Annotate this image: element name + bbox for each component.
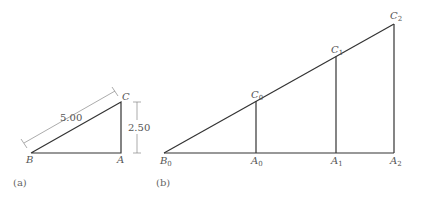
label-a0: A0 <box>250 155 263 168</box>
hypotenuse-length: 5.00 <box>60 112 82 123</box>
label-a2: A2 <box>389 155 402 168</box>
triangle-abc <box>31 102 121 153</box>
label-b0: B0 <box>159 155 172 168</box>
label-c0: C0 <box>251 89 263 102</box>
label-b: B <box>25 154 33 165</box>
figure-a: 5.00 2.50 B A C (a) <box>13 87 150 188</box>
similar-triangles-diagram: 5.00 2.50 B A C (a) B0 A0 A1 A2 C0 C1 C2… <box>0 0 423 198</box>
caption-a: (a) <box>13 177 27 188</box>
label-a: A <box>116 154 124 165</box>
caption-b: (b) <box>156 177 170 188</box>
figure-b: B0 A0 A1 A2 C0 C1 C2 (b) <box>156 10 402 188</box>
height-length: 2.50 <box>128 122 150 133</box>
label-c2: C2 <box>390 10 402 23</box>
label-c: C <box>122 91 130 102</box>
label-c1: C1 <box>331 44 343 57</box>
hypotenuse-line <box>164 24 394 153</box>
label-a1: A1 <box>330 155 343 168</box>
